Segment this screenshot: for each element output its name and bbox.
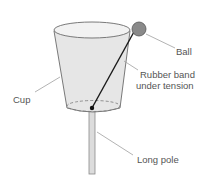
ball [132,22,146,36]
rubber-band-label-line1: Rubber band [140,70,195,80]
pole-leader [97,132,133,155]
cup [54,31,130,112]
pole-label: Long pole [137,155,179,165]
cup-rim [54,22,130,38]
anchor-dot [90,106,94,110]
band-leader [124,61,138,70]
rubber-band-label-line2: under tension [136,81,194,91]
cup-leader [35,77,60,92]
cup-label: Cup [13,95,30,105]
ball-leader [146,34,175,48]
long-pole [89,110,95,174]
ball-label: Ball [176,47,192,57]
